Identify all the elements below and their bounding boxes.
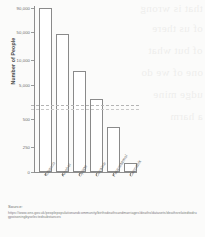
source-url: https://www.ons.gov.uk/peoplepopulationa… (8, 211, 198, 220)
bar-opiate (73, 71, 86, 172)
axis-break-marker (31, 105, 139, 106)
plot-area (34, 6, 137, 173)
y-axis-tick-labels: 90,000 50,000 10,000 5,000 500 250 0 (6, 0, 30, 237)
bar-tobacco (39, 8, 52, 172)
x-axis-tick-labels: Tobacco Alcohol Opiate Cocaine Paracetam… (34, 175, 154, 203)
y-tick-label: 500 (6, 117, 30, 122)
bar-chart-figure: Number of People 90,000 50,000 10,000 5,… (0, 0, 205, 237)
source-caption: Source: https://www.ons.gov.uk/peoplepop… (8, 204, 198, 220)
y-tick-label: 90,000 (6, 6, 30, 11)
bar-alcohol (56, 34, 69, 172)
axis-break-marker-2 (31, 109, 139, 110)
y-tick-label: 250 (6, 145, 30, 150)
y-axis-line (34, 6, 35, 173)
source-label: Source: (8, 204, 198, 209)
y-tick-label: 5,000 (6, 83, 30, 88)
y-tick-label: 50,000 (6, 30, 30, 35)
y-tick-label: 0 (6, 170, 30, 175)
y-tick-label: 10,000 (6, 58, 30, 63)
